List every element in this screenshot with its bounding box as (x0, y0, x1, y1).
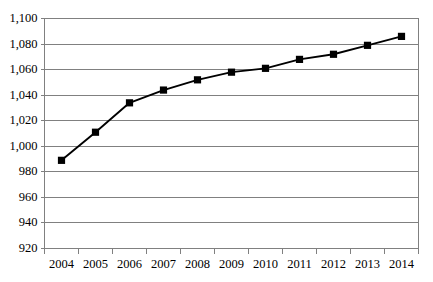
x-axis-label: 2011 (283, 258, 317, 271)
x-axis-label: 2008 (181, 258, 215, 271)
x-axis-label: 2007 (147, 258, 181, 271)
data-point-marker (228, 69, 235, 76)
line-chart: 9209409609801,0001,0201,0401,0601,0801,1… (0, 0, 433, 282)
y-axis-label: 1,040 (9, 89, 37, 102)
data-point-marker (262, 65, 269, 72)
data-point-marker (92, 129, 99, 136)
y-axis-label: 1,020 (9, 114, 37, 127)
data-point-marker (330, 51, 337, 58)
y-axis-label: 960 (19, 191, 38, 204)
x-axis-label: 2005 (79, 258, 113, 271)
data-point-marker (160, 86, 167, 93)
series-line (62, 36, 402, 160)
x-axis-label: 2010 (249, 258, 283, 271)
y-axis-label: 920 (19, 242, 38, 255)
data-point-marker (58, 157, 65, 164)
data-point-marker (398, 33, 405, 40)
y-axis-label: 1,100 (9, 12, 37, 25)
x-axis-label: 2004 (45, 258, 79, 271)
chart-plot-area (0, 0, 433, 282)
data-point-marker (296, 56, 303, 63)
x-axis-label: 2013 (351, 258, 385, 271)
x-axis-label: 2009 (215, 258, 249, 271)
y-axis-label: 980 (19, 165, 38, 178)
data-point-marker (194, 76, 201, 83)
data-point-marker (364, 42, 371, 49)
x-axis-label: 2012 (317, 258, 351, 271)
y-axis-label: 940 (19, 216, 38, 229)
data-point-marker (126, 99, 133, 106)
x-axis-label: 2006 (113, 258, 147, 271)
x-axis-label: 2014 (385, 258, 419, 271)
y-axis-label: 1,080 (9, 38, 37, 51)
y-axis-label: 1,060 (9, 63, 37, 76)
y-axis-label: 1,000 (9, 140, 37, 153)
